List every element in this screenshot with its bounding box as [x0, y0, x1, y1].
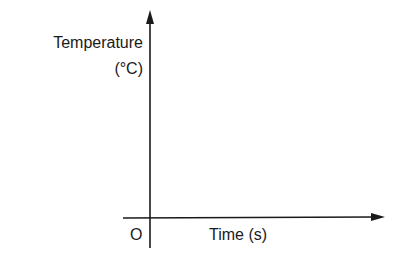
y-axis-label: Temperature: [53, 34, 143, 52]
y-axis-unit: (°C): [114, 60, 143, 78]
x-axis-arrow-icon: [371, 213, 385, 221]
x-axis: [123, 217, 374, 218]
x-axis-label: Time (s): [209, 226, 267, 244]
y-axis-arrow-icon: [146, 10, 154, 24]
origin-label: O: [130, 226, 142, 244]
